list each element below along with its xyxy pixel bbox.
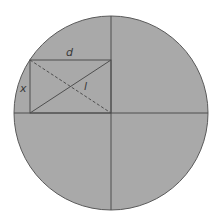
- label-x: x: [19, 82, 27, 95]
- label-d: d: [66, 46, 74, 59]
- circle-rectangle-diagram: d x l: [0, 0, 219, 219]
- label-l: l: [84, 80, 87, 93]
